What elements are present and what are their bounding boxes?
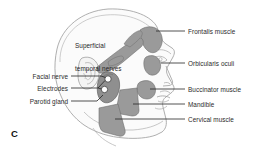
- label-parotid-gland: Parotid gland: [30, 98, 68, 106]
- anatomical-figure-panel-c: Superficial temporal nerves Facial nerve…: [0, 0, 258, 150]
- label-superficial-temporal-nerves: Superficial temporal nerves: [75, 27, 122, 88]
- label-orbicularis-oculi: Orbicularis oculi: [188, 60, 234, 68]
- label-cervical-muscle: Cervical muscle: [188, 116, 234, 124]
- label-buccinator-muscle: Buccinator muscle: [188, 86, 241, 94]
- label-facial-nerve: Facial nerve: [33, 73, 68, 81]
- label-mandible: Mandible: [188, 101, 214, 109]
- label-superficial-temporal-nerves-line1: Superficial: [75, 42, 122, 50]
- label-superficial-temporal-nerves-line2: temporal nerves: [75, 65, 122, 73]
- panel-letter: C: [11, 128, 18, 139]
- orbicularis-oculi-shape: [144, 56, 161, 76]
- label-frontalis-muscle: Frontalis muscle: [188, 28, 235, 36]
- buccinator-muscle-shape: [137, 81, 156, 99]
- label-electrodes: Electrodes: [37, 85, 68, 93]
